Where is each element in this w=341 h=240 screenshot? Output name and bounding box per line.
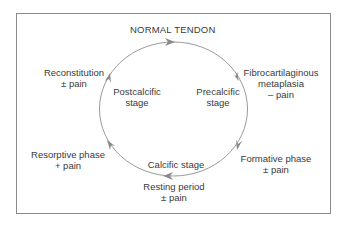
phase-resting-line2: ± pain [136, 192, 212, 203]
phase-fibrocartilaginous-line3: – pain [240, 89, 322, 100]
stage-postcalcific: Postcalcific stage [107, 86, 167, 108]
phase-formative: Formative phase ± pain [236, 153, 316, 175]
stage-precalcific-line1: Precalcific [192, 86, 244, 97]
phase-fibrocartilaginous: Fibrocartilaginous metaplasia – pain [240, 67, 322, 100]
phase-formative-line1: Formative phase [236, 153, 316, 164]
title-normal-tendon: NORMAL TENDON [130, 24, 215, 35]
phase-resorptive-line1: Resorptive phase [28, 149, 108, 160]
phase-fibrocartilaginous-line2: metaplasia [240, 78, 322, 89]
phase-reconstitution-line1: Reconstitution [38, 67, 110, 78]
phase-reconstitution: Reconstitution ± pain [38, 67, 110, 89]
phase-resorptive-line2: + pain [28, 160, 108, 171]
phase-fibrocartilaginous-line1: Fibrocartilaginous [240, 67, 322, 78]
phase-resting: Resting period ± pain [136, 181, 212, 203]
stage-calcific-line1: Calcific stage [140, 159, 212, 170]
phase-resting-line1: Resting period [136, 181, 212, 192]
stage-precalcific: Precalcific stage [192, 86, 244, 108]
phase-formative-line2: ± pain [236, 164, 316, 175]
stage-postcalcific-line1: Postcalcific [107, 86, 167, 97]
stage-precalcific-line2: stage [192, 97, 244, 108]
phase-reconstitution-line2: ± pain [38, 78, 110, 89]
stage-calcific: Calcific stage [140, 159, 212, 170]
phase-resorptive: Resorptive phase + pain [28, 149, 108, 171]
stage-postcalcific-line2: stage [107, 97, 167, 108]
cycle-ellipse [100, 42, 248, 176]
